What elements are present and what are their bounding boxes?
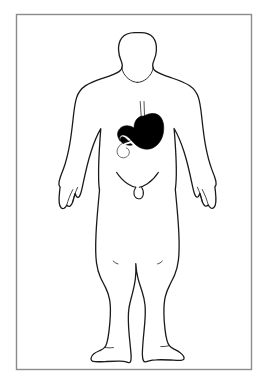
anatomy-figure: Outline drawing of a standing human figu… (0, 0, 269, 384)
anatomy-canvas (0, 0, 269, 384)
